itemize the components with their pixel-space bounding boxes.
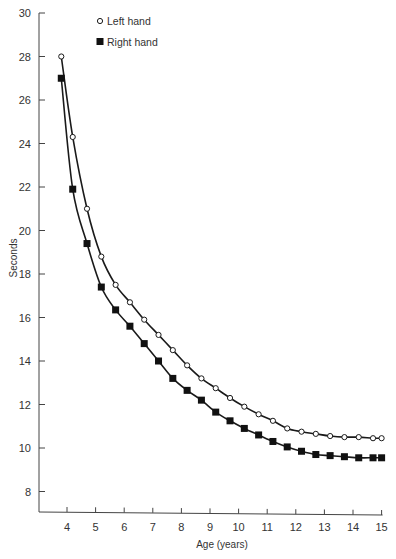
filled-square-marker xyxy=(58,75,65,82)
open-circle-marker xyxy=(113,282,118,287)
x-tick-label: 14 xyxy=(347,521,359,533)
y-tick-label: 28 xyxy=(19,51,31,63)
open-circle-marker xyxy=(70,134,75,139)
open-circle-marker xyxy=(285,426,290,431)
open-circle-marker xyxy=(170,348,175,353)
y-tick-label: 22 xyxy=(19,181,31,193)
filled-square-marker xyxy=(69,186,76,193)
open-circle-marker xyxy=(142,317,147,322)
filled-square-marker xyxy=(198,397,205,404)
filled-square-marker xyxy=(112,306,119,313)
filled-square-marker xyxy=(327,452,334,459)
y-tick-label: 26 xyxy=(19,94,31,106)
open-circle-marker xyxy=(156,332,161,337)
y-tick-label: 12 xyxy=(19,399,31,411)
open-circle-marker xyxy=(370,436,375,441)
open-circle-marker xyxy=(299,429,304,434)
open-circle-marker xyxy=(199,376,204,381)
x-tick-label: 15 xyxy=(375,521,387,533)
filled-square-marker xyxy=(378,454,385,461)
filled-square-marker xyxy=(341,453,348,460)
filled-square-icon xyxy=(97,38,104,45)
series-line xyxy=(61,57,381,439)
open-circle-marker xyxy=(356,435,361,440)
legend: Left hand Right hand xyxy=(97,15,158,48)
legend-label-right-hand: Right hand xyxy=(107,36,158,48)
open-circle-marker xyxy=(328,433,333,438)
x-axis-title: Age (years) xyxy=(196,539,248,550)
filled-square-marker xyxy=(269,438,276,445)
open-circle-marker xyxy=(313,431,318,436)
open-circle-marker xyxy=(256,412,261,417)
line-chart-svg: 8101214161820222426283045678910111213141… xyxy=(0,0,396,559)
open-circle-marker xyxy=(127,300,132,305)
filled-square-marker xyxy=(355,454,362,461)
filled-square-marker xyxy=(212,409,219,416)
y-tick-label: 8 xyxy=(25,486,31,498)
open-circle-marker xyxy=(227,395,232,400)
x-tick-label: 9 xyxy=(207,521,213,533)
y-tick-label: 18 xyxy=(19,268,31,280)
x-tick-label: 8 xyxy=(178,521,184,533)
y-tick-label: 30 xyxy=(19,7,31,19)
y-tick-label: 10 xyxy=(19,442,31,454)
series-left-hand xyxy=(59,54,385,441)
y-axis-title: Seconds xyxy=(8,239,19,278)
filled-square-marker xyxy=(370,454,377,461)
open-circle-marker xyxy=(342,435,347,440)
filled-square-marker xyxy=(241,425,248,432)
filled-square-marker xyxy=(169,375,176,382)
x-tick-label: 4 xyxy=(64,521,70,533)
x-tick-label: 11 xyxy=(261,521,272,533)
filled-square-marker xyxy=(184,387,191,394)
chart: 8101214161820222426283045678910111213141… xyxy=(0,0,396,559)
open-circle-marker xyxy=(84,206,89,211)
open-circle-marker xyxy=(242,404,247,409)
x-tick-label: 13 xyxy=(318,521,330,533)
filled-square-marker xyxy=(284,443,291,450)
filled-square-marker xyxy=(84,240,91,247)
legend-item-left-hand: Left hand xyxy=(97,15,151,27)
y-tick-label: 24 xyxy=(19,138,31,150)
y-tick-label: 16 xyxy=(19,312,31,324)
filled-square-marker xyxy=(298,448,305,455)
x-tick-label: 6 xyxy=(121,521,127,533)
open-circle-marker xyxy=(213,386,218,391)
filled-square-marker xyxy=(155,358,162,365)
filled-square-marker xyxy=(141,340,148,347)
legend-item-right-hand: Right hand xyxy=(97,36,158,48)
filled-square-marker xyxy=(126,323,133,330)
y-tick-label: 14 xyxy=(19,355,31,367)
filled-square-marker xyxy=(312,451,319,458)
series-line xyxy=(61,78,381,458)
x-tick-label: 12 xyxy=(290,521,302,533)
x-tick-label: 7 xyxy=(150,521,156,533)
filled-square-marker xyxy=(98,284,105,291)
open-circle-icon xyxy=(97,18,102,23)
open-circle-marker xyxy=(379,436,384,441)
open-circle-marker xyxy=(99,254,104,259)
x-tick-label: 10 xyxy=(232,521,244,533)
x-axis-line xyxy=(39,512,383,515)
legend-label-left-hand: Left hand xyxy=(107,15,151,27)
x-tick-label: 5 xyxy=(93,521,99,533)
open-circle-marker xyxy=(270,418,275,423)
open-circle-marker xyxy=(59,54,64,59)
series-layer xyxy=(58,54,385,461)
filled-square-marker xyxy=(255,431,262,438)
y-tick-label: 20 xyxy=(19,225,31,237)
open-circle-marker xyxy=(185,363,190,368)
filled-square-marker xyxy=(227,417,234,424)
